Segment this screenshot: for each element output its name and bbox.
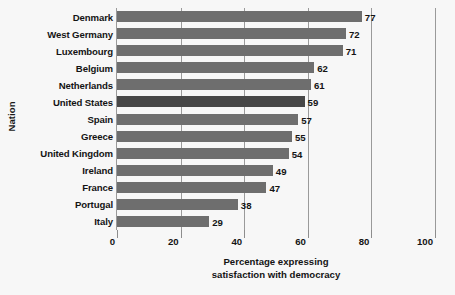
bar-value-label: 49 (276, 166, 287, 177)
bar-value-label: 61 (314, 80, 325, 91)
bar (117, 45, 343, 56)
bar (117, 131, 292, 142)
bar-value-label: 59 (308, 97, 319, 108)
bar-value-label: 54 (292, 149, 303, 160)
bar (117, 11, 362, 22)
gridline-x-100 (435, 8, 436, 230)
bar-value-label: 72 (349, 29, 360, 40)
bar (117, 79, 311, 90)
x-tick-label: 60 (295, 236, 308, 247)
x-tick-40 (244, 230, 245, 238)
x-axis-title: Percentage expressing satisfaction with … (117, 256, 435, 281)
plot-area: 77727162615957555449473829 (117, 8, 435, 230)
bar-chart: Nation DenmarkWest GermanyLuxembourgBelg… (0, 0, 455, 295)
category-label-column: DenmarkWest GermanyLuxembourgBelgiumNeth… (22, 8, 113, 230)
category-label: Portugal (22, 199, 113, 210)
bar-value-label: 62 (317, 63, 328, 74)
x-tick-20 (181, 230, 182, 238)
y-axis-title: Nation (0, 0, 22, 232)
gridline-x-80 (371, 8, 372, 230)
category-label: United States (22, 97, 113, 108)
bar (117, 148, 289, 159)
bar-value-label: 71 (346, 46, 357, 57)
category-label: Netherlands (22, 80, 113, 91)
bar-value-label: 77 (365, 12, 376, 23)
x-tick-label: 0 (110, 236, 117, 247)
bar-value-label: 47 (269, 183, 280, 194)
category-label: Spain (22, 114, 113, 125)
category-label: Luxembourg (22, 46, 113, 57)
x-tick-100 (435, 230, 436, 238)
x-axis-title-line-1: Percentage expressing (117, 256, 435, 269)
category-label: Greece (22, 131, 113, 142)
category-label: United Kingdom (22, 148, 113, 159)
x-tick-80 (371, 230, 372, 238)
bar (117, 62, 314, 73)
bar (117, 216, 209, 227)
category-label: France (22, 182, 113, 193)
bar-value-label: 57 (301, 115, 312, 126)
bar (117, 182, 266, 193)
category-label: Italy (22, 216, 113, 227)
category-label: West Germany (22, 29, 113, 40)
x-tick-label: 40 (232, 236, 245, 247)
category-label: Ireland (22, 165, 113, 176)
bar (117, 114, 298, 125)
bar-value-label: 29 (212, 217, 223, 228)
x-tick-label: 80 (359, 236, 372, 247)
x-tick-label: 100 (417, 236, 435, 247)
bar (117, 165, 273, 176)
x-axis-title-line-2: satisfaction with democracy (117, 269, 435, 282)
category-label: Denmark (22, 12, 113, 23)
category-label: Belgium (22, 63, 113, 74)
bar (117, 199, 238, 210)
bar-value-label: 38 (241, 200, 252, 211)
x-tick-label: 20 (168, 236, 181, 247)
x-tick-60 (308, 230, 309, 238)
x-axis: 020406080100 (117, 230, 435, 252)
y-axis-title-text: Nation (6, 101, 17, 131)
bar-value-label: 55 (295, 132, 306, 143)
x-tick-0 (117, 230, 118, 238)
bar (117, 28, 346, 39)
bar (117, 96, 305, 107)
